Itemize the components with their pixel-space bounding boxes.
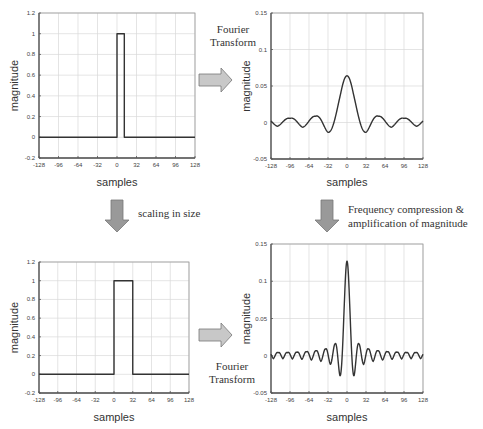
y-tick-label: 1.2 <box>27 10 36 16</box>
x-tick-label: -128 <box>33 162 46 168</box>
fourier-transform-label-bottom: Transform <box>209 373 255 385</box>
y-tick-label: 0.2 <box>27 353 36 359</box>
y-tick-label: 1 <box>32 31 36 37</box>
x-tick-label: -96 <box>286 163 295 169</box>
y-tick-label: 0.05 <box>255 316 267 322</box>
y-tick-label: 0.1 <box>259 47 268 53</box>
y-tick-label: 0.4 <box>27 93 36 99</box>
y-axis-label: magnitude <box>8 60 20 111</box>
x-tick-label: 32 <box>363 397 370 403</box>
y-axis-label: magnitude <box>8 302 20 353</box>
down-arrow-icon <box>105 200 129 232</box>
y-tick-label: 0.15 <box>255 241 267 247</box>
x-axis-label: samples <box>94 411 135 423</box>
plot-top-right: -128-96-64-320326496128-0.0500.050.10.15… <box>240 10 429 188</box>
scaling-label: scaling in size <box>138 207 200 219</box>
y-tick-label: 1.2 <box>27 259 36 265</box>
x-tick-label: -64 <box>74 162 83 168</box>
grid-lines <box>271 13 423 159</box>
y-tick-label: 0.1 <box>259 278 268 284</box>
x-tick-label: -96 <box>54 162 63 168</box>
x-tick-label: -32 <box>91 397 100 403</box>
x-tick-label: -128 <box>265 163 278 169</box>
y-tick-label: 0 <box>264 353 268 359</box>
x-tick-label: -32 <box>93 162 102 168</box>
right-arrow-icon <box>199 323 232 347</box>
compression-label: amplification of magnitude <box>348 217 468 229</box>
x-tick-label: 32 <box>129 397 136 403</box>
x-axis-label: samples <box>327 411 368 423</box>
plot-bottom-left: -128-96-64-320326496128-0.200.20.40.60.8… <box>8 259 195 423</box>
x-tick-label: 96 <box>172 162 179 168</box>
plot-top-left: -128-96-64-320326496128-0.200.20.40.60.8… <box>8 10 201 188</box>
figure-canvas: -128-96-64-320326496128-0.200.20.40.60.8… <box>0 0 483 429</box>
y-axis-label: magnitude <box>240 293 252 344</box>
y-axis-label: magnitude <box>240 60 252 111</box>
x-tick-label: -64 <box>305 397 314 403</box>
x-tick-label: 0 <box>115 162 119 168</box>
x-tick-label: -96 <box>286 397 295 403</box>
fourier-transform-label-top: Transform <box>210 36 256 48</box>
y-tick-label: 0 <box>32 134 36 140</box>
y-tick-label: 0 <box>264 120 268 126</box>
fourier-transform-label-bottom: Fourier <box>216 360 249 372</box>
x-tick-label: 128 <box>418 397 429 403</box>
x-tick-label: 0 <box>112 397 116 403</box>
x-tick-label: 64 <box>153 162 160 168</box>
x-tick-label: -32 <box>324 163 333 169</box>
x-tick-label: 96 <box>401 397 408 403</box>
compression-label: Frequency compression & <box>348 203 465 215</box>
fourier-transform-label-top: Fourier <box>217 23 250 35</box>
x-tick-label: -64 <box>72 397 81 403</box>
y-tick-label: -0.05 <box>253 156 267 162</box>
y-tick-label: -0.2 <box>25 155 36 161</box>
x-tick-label: 32 <box>133 162 140 168</box>
x-tick-label: -128 <box>33 397 46 403</box>
y-tick-label: 0.15 <box>255 10 267 16</box>
y-tick-label: 0.6 <box>27 315 36 321</box>
x-tick-label: 32 <box>363 163 370 169</box>
grid-lines <box>271 244 423 393</box>
x-tick-label: 128 <box>190 162 201 168</box>
x-tick-label: 96 <box>401 163 408 169</box>
y-tick-label: 1 <box>32 278 36 284</box>
data-line <box>39 34 195 138</box>
x-tick-label: 64 <box>382 163 389 169</box>
x-tick-label: 128 <box>184 397 195 403</box>
x-tick-label: -96 <box>53 397 62 403</box>
x-tick-label: 0 <box>345 163 349 169</box>
y-tick-label: 0.6 <box>27 72 36 78</box>
y-tick-label: 0.2 <box>27 114 36 120</box>
x-tick-label: 64 <box>382 397 389 403</box>
y-tick-label: 0.4 <box>27 334 36 340</box>
y-tick-label: 0.05 <box>255 83 267 89</box>
x-axis-label: samples <box>97 176 138 188</box>
x-tick-label: -64 <box>305 163 314 169</box>
y-tick-label: -0.05 <box>253 390 267 396</box>
x-tick-label: 128 <box>418 163 429 169</box>
data-line <box>39 281 189 375</box>
right-arrow-icon <box>199 68 232 92</box>
x-tick-label: -128 <box>265 397 278 403</box>
plot-bottom-right: -128-96-64-320326496128-0.0500.050.10.15… <box>240 241 429 423</box>
x-tick-label: 0 <box>345 397 349 403</box>
y-tick-label: -0.2 <box>25 390 36 396</box>
down-arrow-icon <box>315 200 339 232</box>
y-tick-label: 0.8 <box>27 296 36 302</box>
y-tick-label: 0.8 <box>27 51 36 57</box>
x-axis-label: samples <box>327 176 368 188</box>
x-tick-label: 96 <box>167 397 174 403</box>
x-tick-label: -32 <box>324 397 333 403</box>
x-tick-label: 64 <box>148 397 155 403</box>
y-tick-label: 0 <box>32 371 36 377</box>
